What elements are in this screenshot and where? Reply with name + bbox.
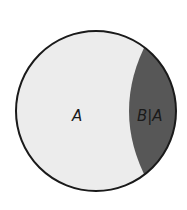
set-a-label: A <box>71 107 82 125</box>
b-given-a-label: B|A <box>137 107 163 125</box>
venn-diagram: A B|A <box>0 0 187 210</box>
